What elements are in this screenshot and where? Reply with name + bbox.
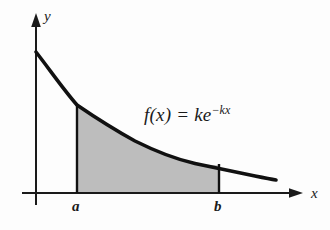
- tick-label-a: a: [72, 198, 80, 215]
- function-lhs: f(x): [144, 104, 171, 125]
- function-expression-label: f(x)=ke−kx: [144, 103, 230, 126]
- y-axis-label: y: [44, 8, 51, 25]
- function-equals-sign: =: [171, 104, 194, 125]
- y-axis-arrowhead: [31, 13, 41, 27]
- function-coefficient: k: [194, 104, 203, 125]
- figure-canvas: y x a b f(x)=ke−kx: [0, 0, 330, 230]
- function-exponent: −kx: [211, 103, 230, 117]
- x-axis-label: x: [311, 185, 318, 202]
- tick-label-b: b: [214, 198, 222, 215]
- x-axis-arrowhead: [289, 188, 303, 198]
